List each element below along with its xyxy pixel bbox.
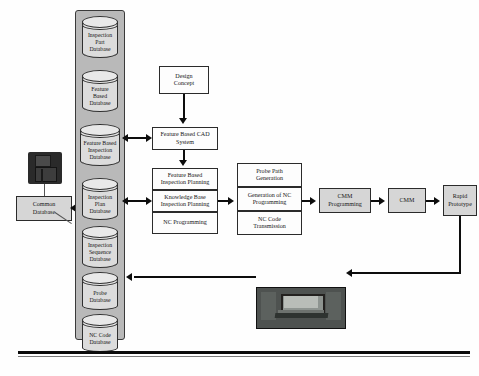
- probe-path-generation-box[interactable]: Probe PathGeneration: [237, 163, 302, 187]
- db-label: Feature BasedInspectionDatabase: [80, 136, 120, 165]
- db-lid: [82, 178, 118, 190]
- cmm-programming-to-cmm-arrow-head: [379, 197, 385, 205]
- db-label: FeatureBasedDatabase: [82, 82, 118, 111]
- column-to-planning-line: [128, 200, 148, 202]
- floppy-shutter: [35, 155, 51, 168]
- keyboard-icon: [274, 313, 328, 318]
- db-label: InspectionSequenceDatabase: [82, 238, 118, 267]
- bottom-rule-thick: [18, 351, 470, 354]
- photo-right-panel: [326, 292, 342, 320]
- db-label: ProbeDatabase: [82, 284, 118, 309]
- common-database-label-line1: Common: [33, 201, 56, 207]
- computer-workstation-photo[interactable]: [256, 287, 346, 329]
- rapid-prototype-box[interactable]: RapidPrototype: [443, 185, 477, 216]
- design-to-cad-line: [183, 94, 185, 120]
- db-label: InspectionPartDatabase: [82, 28, 118, 57]
- db-label: InspectionPlanDatabase: [82, 190, 118, 219]
- inspection-part-database[interactable]: InspectionPartDatabase: [82, 16, 118, 58]
- db-label: NC CodeDatabase: [82, 326, 118, 351]
- probe-to-cmm-programming-arrow-head: [310, 197, 316, 205]
- db-lid: [82, 70, 118, 82]
- nc-programming-box[interactable]: NC Programming: [152, 212, 218, 234]
- knowledge-base-inspection-planning-box[interactable]: Knowledge BaseInspection Planning: [152, 190, 218, 212]
- db-lid: [80, 124, 120, 136]
- floppy-label-area: [35, 167, 56, 182]
- db-lid: [82, 16, 118, 28]
- column-to-cad-line: [128, 137, 148, 139]
- inspection-plan-database[interactable]: InspectionPlanDatabase: [82, 178, 118, 220]
- cad-to-planning-arrow-head: [179, 160, 187, 166]
- column-to-planning-arrow-right-head: [146, 197, 152, 205]
- db-lid: [82, 314, 118, 326]
- design-concept-box[interactable]: DesignConcept: [159, 66, 209, 94]
- db-lid: [82, 272, 118, 284]
- rapid-prototype-feedback-vertical-line: [459, 216, 461, 274]
- column-to-cad-arrow-left-head: [122, 134, 128, 142]
- rapid-prototype-feedback-horizontal-line: [352, 272, 461, 274]
- cmm-box[interactable]: CMM: [388, 188, 426, 213]
- floppy-disk-icon: [28, 152, 62, 184]
- floppy-notch: [41, 169, 43, 182]
- inspection-sequence-database[interactable]: InspectionSequenceDatabase: [82, 226, 118, 268]
- bottom-rule-thin: [18, 356, 470, 357]
- feature-based-inspection-planning-box[interactable]: Feature BasedInspection Planning: [152, 168, 218, 190]
- diagram-canvas: Common Database InspectionPartDatabase F…: [0, 0, 479, 376]
- db-lid: [82, 226, 118, 238]
- feedback-to-computer-arrow-head: [346, 269, 352, 277]
- common-database-label-line2: Database: [33, 209, 55, 215]
- column-to-cad-arrow-right-head: [146, 134, 152, 142]
- computer-to-probe-database-line: [134, 276, 256, 278]
- generation-of-nc-programming-box[interactable]: Generation of NCProgramming: [237, 187, 302, 211]
- feature-based-cad-system-box[interactable]: Feature Based CADSystem: [152, 127, 218, 150]
- monitor-screen: [284, 296, 317, 308]
- feature-based-inspection-database[interactable]: Feature BasedInspectionDatabase: [80, 124, 120, 166]
- planning-to-probe-arrow-head: [228, 197, 234, 205]
- cmm-to-rapid-prototype-arrow-head: [434, 197, 440, 205]
- probe-database[interactable]: ProbeDatabase: [82, 272, 118, 310]
- floppy-to-common-db-connector: [44, 184, 45, 196]
- cmm-programming-box[interactable]: CMMProgramming: [319, 188, 371, 213]
- nc-code-transmission-box[interactable]: NC CodeTransmission: [237, 211, 302, 235]
- computer-to-probe-database-arrow-head: [126, 273, 132, 281]
- design-to-cad-arrow-head: [179, 118, 187, 124]
- nc-code-database[interactable]: NC CodeDatabase: [82, 314, 118, 352]
- column-to-planning-arrow-left-head: [122, 197, 128, 205]
- feature-based-database[interactable]: FeatureBasedDatabase: [82, 70, 118, 112]
